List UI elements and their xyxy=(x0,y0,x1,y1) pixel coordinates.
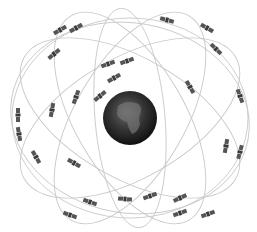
satellite-icon xyxy=(71,90,80,105)
satellite-icon xyxy=(184,80,195,95)
diagram-canvas xyxy=(0,0,257,232)
satellite-icon xyxy=(143,191,158,200)
satellite-icon xyxy=(120,56,135,65)
satellite-icon xyxy=(201,209,216,218)
satellite-icon xyxy=(16,108,21,122)
satellite-icon xyxy=(93,90,107,103)
satellite-icon xyxy=(107,72,122,83)
satellite-icon xyxy=(67,157,82,168)
satellite-icon xyxy=(222,139,229,154)
satellite-icon xyxy=(63,210,78,219)
earth-globe xyxy=(103,91,157,145)
satellite-icon xyxy=(30,150,41,165)
satellite-icon xyxy=(118,196,132,202)
gps-constellation-diagram xyxy=(0,0,257,232)
